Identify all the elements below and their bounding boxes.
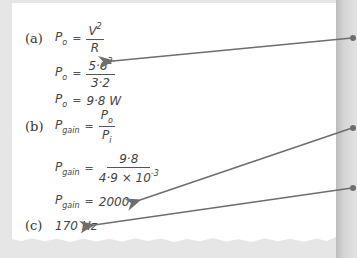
arrow-to-part-b (140, 125, 356, 200)
arrow-dot-icon (350, 185, 356, 191)
arrow-dot-icon (350, 125, 356, 131)
arrow-to-part-c (94, 185, 356, 225)
annotation-arrows (0, 0, 357, 258)
arrow-to-part-a (113, 35, 356, 61)
arrow-dot-icon (350, 35, 356, 41)
